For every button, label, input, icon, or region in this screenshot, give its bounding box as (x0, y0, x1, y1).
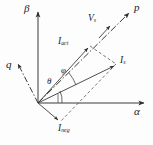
i-neg-sub: neg (61, 127, 69, 133)
p-axis-line (38, 13, 129, 103)
q-axis-label: q (6, 59, 12, 70)
p-axis-label: p (134, 2, 140, 13)
phi-arc (69, 73, 76, 85)
theta-arc (60, 91, 62, 103)
alpha-axis-label: α (134, 106, 140, 117)
v-s-label: Vs (88, 14, 96, 24)
phasor-diagram-figure: β α p q Vs Iact Is Ineg θ φ (0, 0, 153, 145)
phi-angle-label: φ (61, 66, 66, 75)
i-s-label: Is (120, 56, 125, 66)
i-act-vector (38, 48, 88, 103)
i-act-label: Iact (58, 37, 68, 47)
v-s-sub: s (94, 17, 96, 23)
i-neg-vector (38, 103, 58, 120)
beta-axis-label: β (24, 3, 29, 14)
diagram-canvas (0, 0, 153, 145)
q-axis-line (18, 64, 38, 103)
i-act-sub: act (61, 40, 68, 46)
v-s-vector (99, 26, 110, 38)
theta-angle-label: θ (47, 77, 51, 86)
i-s-sub: s (123, 59, 125, 65)
construction-line-act-to-is (90, 46, 116, 64)
i-neg-label: Ineg (58, 124, 70, 134)
